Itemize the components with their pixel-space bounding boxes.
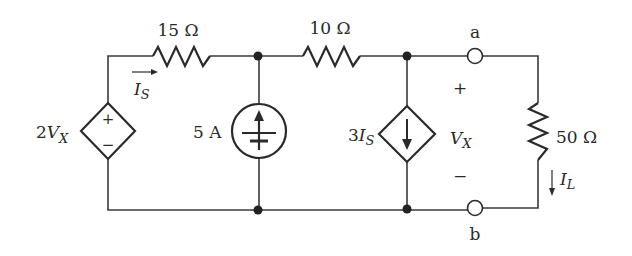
resistor-15-ohm bbox=[153, 47, 210, 66]
vx-plus: + bbox=[453, 78, 467, 98]
current-source-label: 5 A bbox=[193, 122, 222, 142]
is-arrow-icon bbox=[151, 69, 158, 75]
node-dot-top-1 bbox=[254, 52, 263, 61]
wire-right-top bbox=[483, 56, 538, 103]
terminal-a-label: a bbox=[470, 22, 480, 42]
wires bbox=[108, 56, 538, 210]
il-arrow-icon bbox=[549, 188, 555, 196]
is-label: IS bbox=[133, 79, 150, 102]
terminal-b-label: b bbox=[470, 224, 481, 244]
arrow-up-icon bbox=[254, 110, 264, 121]
dep-vsource-minus: − bbox=[102, 136, 115, 154]
resistor-10-ohm-label: 10 Ω bbox=[309, 18, 350, 38]
il-label: IL bbox=[559, 169, 575, 192]
arrow-down-icon bbox=[402, 139, 412, 150]
circuit-diagram: a b 15 Ω 10 Ω 50 Ω + − 2VX IS 5 A 3IS + … bbox=[0, 0, 632, 256]
terminal-b bbox=[468, 201, 483, 216]
resistor-50-ohm bbox=[529, 103, 547, 160]
resistor-50-ohm-label: 50 Ω bbox=[556, 127, 597, 147]
node-dot-bottom-2 bbox=[403, 205, 412, 214]
terminal-a bbox=[468, 49, 483, 64]
resistor-10-ohm bbox=[303, 47, 360, 66]
vx-label: VX bbox=[450, 128, 472, 151]
node-dot-top-2 bbox=[403, 52, 412, 61]
wire-bottom-rail bbox=[108, 159, 468, 210]
dep-isource-label: 3IS bbox=[348, 125, 375, 148]
wire-right-bottom bbox=[483, 160, 538, 208]
resistor-15-ohm-label: 15 Ω bbox=[157, 20, 198, 40]
node-dot-bottom-1 bbox=[254, 206, 263, 215]
dep-vsource-label: 2VX bbox=[36, 122, 69, 146]
vx-minus: − bbox=[453, 166, 467, 186]
dep-vsource-plus: + bbox=[102, 110, 115, 128]
